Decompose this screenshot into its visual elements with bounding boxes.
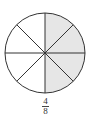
fraction-numerator: 4: [0, 97, 91, 106]
fraction-denominator: 8: [0, 107, 91, 116]
